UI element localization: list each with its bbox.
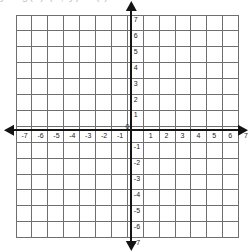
x-tick-label: 6 — [228, 132, 232, 139]
y-tick-label: 6 — [134, 32, 138, 39]
x-tick-label: -3 — [85, 132, 91, 139]
y-tick-label: -4 — [134, 191, 140, 198]
y-tick-label: -2 — [134, 159, 140, 166]
x-tick-label: -1 — [117, 132, 123, 139]
x-tick-label: -4 — [69, 132, 75, 139]
y-tick-label: -7 — [134, 239, 140, 246]
x-axis-tick-labels: -7-6-5-4-3-2-11234567 — [22, 132, 249, 139]
x-tick-label: -2 — [101, 132, 107, 139]
y-tick-label: -3 — [134, 175, 140, 182]
x-tick-label: 4 — [196, 132, 200, 139]
x-tick-label: -6 — [37, 132, 43, 139]
graph-canvas: y = g(x) (2, y) = ( ) -7-6-5-4-3-2-11234… — [0, 0, 251, 252]
y-tick-label: 1 — [134, 111, 138, 118]
x-tick-label: -5 — [53, 132, 59, 139]
y-tick-label: -6 — [134, 223, 140, 230]
x-tick-label: -7 — [22, 132, 28, 139]
coordinate-plane: -7-6-5-4-3-2-11234567 -7-6-5-4-3-2-11234… — [0, 0, 251, 252]
x-tick-label: 5 — [212, 132, 216, 139]
y-tick-label: -1 — [134, 143, 140, 150]
x-tick-label: 7 — [244, 132, 248, 139]
y-tick-label: 2 — [134, 96, 138, 103]
x-axis-arrow-left — [4, 125, 14, 136]
y-tick-label: 7 — [134, 16, 138, 23]
y-axis-arrow-up — [126, 1, 137, 11]
x-tick-label: 3 — [181, 132, 185, 139]
origin-label: 0 — [125, 123, 129, 130]
x-tick-label: 2 — [165, 132, 169, 139]
y-tick-label: 4 — [134, 64, 138, 71]
y-tick-label: 5 — [134, 48, 138, 55]
x-tick-label: 1 — [149, 132, 153, 139]
y-tick-label: 3 — [134, 80, 138, 87]
y-tick-label: -5 — [134, 207, 140, 214]
